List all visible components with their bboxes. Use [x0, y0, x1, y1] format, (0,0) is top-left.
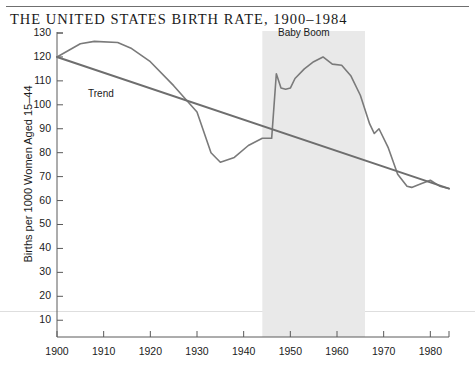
- y-tick-label: 80: [21, 146, 51, 158]
- x-tick-label: 1980: [410, 345, 450, 357]
- y-tick-label: 20: [21, 289, 51, 301]
- x-tick-label: 1940: [224, 345, 264, 357]
- x-tick-label: 1950: [270, 345, 310, 357]
- x-tick-label: 1920: [130, 345, 170, 357]
- y-tick-label: 50: [21, 217, 51, 229]
- birth-rate-figure: THE UNITED STATES BIRTH RATE, 1900–1984 …: [0, 0, 475, 371]
- chart-axes: [57, 32, 449, 337]
- y-tick-label: 130: [21, 26, 51, 38]
- trend-annotation: Trend: [88, 88, 114, 99]
- x-tick-label: 1900: [37, 345, 77, 357]
- x-tick-label: 1910: [84, 345, 124, 357]
- y-tick-label: 90: [21, 122, 51, 134]
- y-tick-label: 100: [21, 98, 51, 110]
- x-tick-label: 1970: [364, 345, 404, 357]
- line-chart-plot: [0, 0, 475, 371]
- y-tick-label: 30: [21, 265, 51, 277]
- y-tick-label: 40: [21, 241, 51, 253]
- y-tick-label: 10: [21, 313, 51, 325]
- y-tick-label: 120: [21, 50, 51, 62]
- y-tick-label: 70: [21, 170, 51, 182]
- chart-series: [57, 41, 449, 188]
- x-tick-label: 1960: [317, 345, 357, 357]
- baby-boom-annotation: Baby Boom: [278, 27, 330, 38]
- y-tick-label: 60: [21, 194, 51, 206]
- y-tick-label: 110: [21, 74, 51, 86]
- x-tick-label: 1930: [177, 345, 217, 357]
